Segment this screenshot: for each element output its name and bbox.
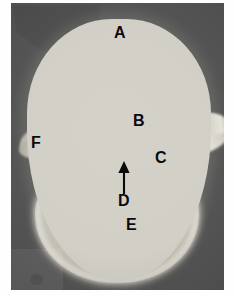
label-e: E: [126, 217, 137, 233]
figure-root: A B C D E F: [0, 0, 235, 296]
specimen-photograph: A B C D E F: [11, 3, 224, 290]
label-f: F: [31, 135, 41, 151]
label-b: B: [133, 113, 145, 129]
leader-arrow-icon: [115, 161, 133, 195]
annotation-layer: A B C D E F: [11, 3, 224, 290]
label-a: A: [114, 25, 126, 41]
label-d: D: [118, 193, 130, 209]
label-c: C: [155, 150, 167, 166]
